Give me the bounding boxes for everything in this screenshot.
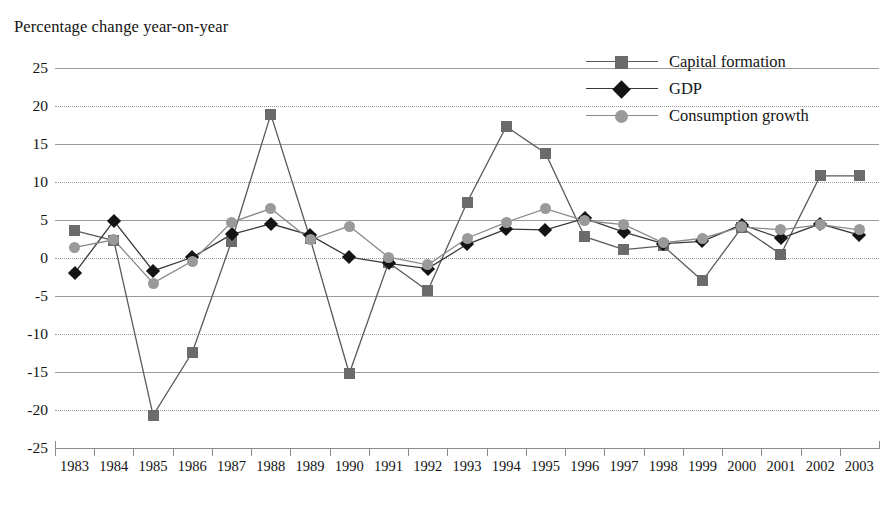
legend-label: Consumption growth (658, 106, 809, 126)
legend-swatch (586, 80, 658, 98)
x-axis-tick-label: 1988 (251, 458, 290, 475)
y-axis-tick-label: 15 (4, 136, 48, 152)
legend-label: GDP (658, 79, 702, 99)
y-axis-tick-label: -15 (4, 364, 48, 380)
x-axis-tick-label: 2002 (801, 458, 840, 475)
data-point-marker (148, 410, 159, 421)
legend-swatch (586, 107, 658, 125)
x-axis-tick-label: 1984 (94, 458, 133, 475)
x-axis-tick (94, 448, 95, 456)
chart-legend: Capital formationGDPConsumption growth (586, 48, 886, 129)
legend-item-gdp[interactable]: GDP (586, 75, 886, 102)
data-point-marker (501, 121, 512, 132)
legend-item-consumption-growth[interactable]: Consumption growth (586, 102, 886, 129)
x-axis-tick-label: 2001 (761, 458, 800, 475)
x-axis-tick (251, 448, 252, 456)
x-axis-tick (55, 448, 56, 456)
x-axis-tick (212, 448, 213, 456)
x-axis-end-cap (879, 441, 880, 449)
data-point-marker (540, 203, 551, 214)
x-axis-tick-label: 1985 (133, 458, 172, 475)
data-point-marker (462, 233, 473, 244)
square-marker-icon (615, 56, 628, 69)
diamond-marker-icon (612, 80, 630, 98)
x-axis-tick-label: 1994 (487, 458, 526, 475)
y-axis-tick-label: -20 (4, 402, 48, 418)
data-point-marker (69, 242, 80, 253)
x-axis-tick-label: 1987 (212, 458, 251, 475)
x-axis-tick (369, 448, 370, 456)
data-point-marker (305, 234, 316, 245)
x-axis-tick-label: 1991 (369, 458, 408, 475)
x-axis-tick (408, 448, 409, 456)
x-axis-tick (801, 448, 802, 456)
x-axis-tick-label: 1983 (55, 458, 94, 475)
x-axis-tick (722, 448, 723, 456)
data-point-marker (697, 275, 708, 286)
data-point-marker (697, 233, 708, 244)
y-axis-labels: 2520151050-5-10-15-20-25 (0, 68, 48, 448)
x-axis-tick (604, 448, 605, 456)
x-axis-tick (526, 448, 527, 456)
y-axis-tick-label: 20 (4, 98, 48, 114)
data-point-marker (854, 170, 865, 181)
data-point-marker (579, 231, 590, 242)
data-point-marker (775, 249, 786, 260)
x-axis-tick-label: 2000 (722, 458, 761, 475)
data-point-marker (69, 225, 80, 236)
chart-figure: Percentage change year-on-year 252015105… (0, 0, 891, 505)
data-point-marker (815, 170, 826, 181)
x-axis-line (55, 448, 879, 449)
y-axis-tick-label: 0 (4, 250, 48, 266)
data-point-marker (462, 197, 473, 208)
chart-axis-title: Percentage change year-on-year (14, 17, 228, 37)
x-axis-tick (487, 448, 488, 456)
y-axis-tick-label: -10 (4, 326, 48, 342)
y-axis-tick-label: -25 (4, 440, 48, 456)
x-axis-tick (683, 448, 684, 456)
x-axis-tick-label: 1986 (173, 458, 212, 475)
circle-marker-icon (615, 110, 628, 123)
x-axis-tick (565, 448, 566, 456)
x-axis-tick (290, 448, 291, 456)
x-axis-tick (173, 448, 174, 456)
x-axis-tick-label: 1993 (447, 458, 486, 475)
x-axis-tick (840, 448, 841, 456)
legend-item-capital-formation[interactable]: Capital formation (586, 48, 886, 75)
data-point-marker (344, 221, 355, 232)
x-axis-tick-label: 1999 (683, 458, 722, 475)
legend-swatch (586, 53, 658, 71)
data-point-marker (501, 217, 512, 228)
data-point-marker (658, 237, 669, 248)
y-axis-tick-label: 5 (4, 212, 48, 228)
data-point-marker (618, 244, 629, 255)
x-axis-tick (330, 448, 331, 456)
data-point-marker (226, 217, 237, 228)
legend-label: Capital formation (658, 52, 786, 72)
x-axis-tick-label: 1997 (604, 458, 643, 475)
x-axis-tick-label: 2003 (840, 458, 879, 475)
data-point-marker (187, 256, 198, 267)
data-point-marker (344, 368, 355, 379)
data-point-marker (383, 252, 394, 263)
data-point-marker (187, 347, 198, 358)
y-axis-tick-label: -5 (4, 288, 48, 304)
x-axis-tick (133, 448, 134, 456)
x-axis-tick-label: 1990 (330, 458, 369, 475)
x-axis-tick-label: 1995 (526, 458, 565, 475)
data-point-marker (540, 148, 551, 159)
x-axis-tick-label: 1996 (565, 458, 604, 475)
x-axis-tick-label: 1989 (290, 458, 329, 475)
y-axis-tick-label: 10 (4, 174, 48, 190)
x-axis-tick (447, 448, 448, 456)
x-axis-tick-label: 1992 (408, 458, 447, 475)
x-axis-tick (761, 448, 762, 456)
data-point-marker (815, 219, 826, 230)
data-point-marker (265, 109, 276, 120)
data-point-marker (148, 278, 159, 289)
x-axis-tick (644, 448, 645, 456)
y-axis-tick-label: 25 (4, 60, 48, 76)
data-point-marker (422, 285, 433, 296)
x-axis-end-cap (55, 441, 56, 449)
x-axis-tick-label: 1998 (644, 458, 683, 475)
